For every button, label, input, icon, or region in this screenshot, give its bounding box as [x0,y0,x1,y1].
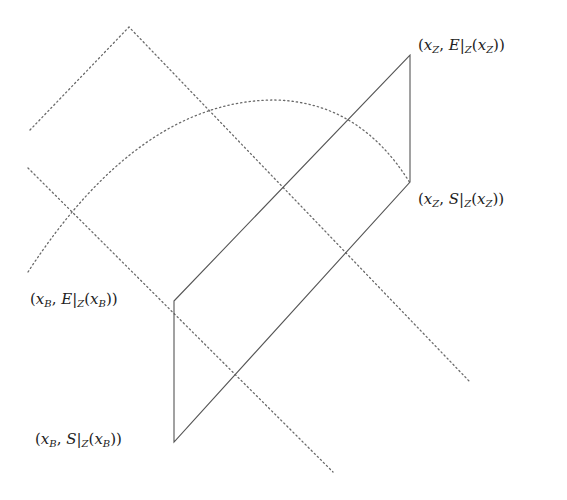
dotted-arc-curve [28,100,410,272]
solid-parallelogram [174,55,410,442]
dotted-tent-curve [30,27,470,382]
label-xZ-E: (xZ, E|Z(xZ)) [418,38,505,53]
label-xZ-S: (xZ, S|Z(xZ)) [418,192,504,207]
label-xB-S: (xB, S|Z(xB)) [35,432,122,447]
dotted-descending-line [28,168,333,472]
diagram-canvas [0,0,567,500]
label-xB-E: (xB, E|Z(xB)) [30,292,118,307]
